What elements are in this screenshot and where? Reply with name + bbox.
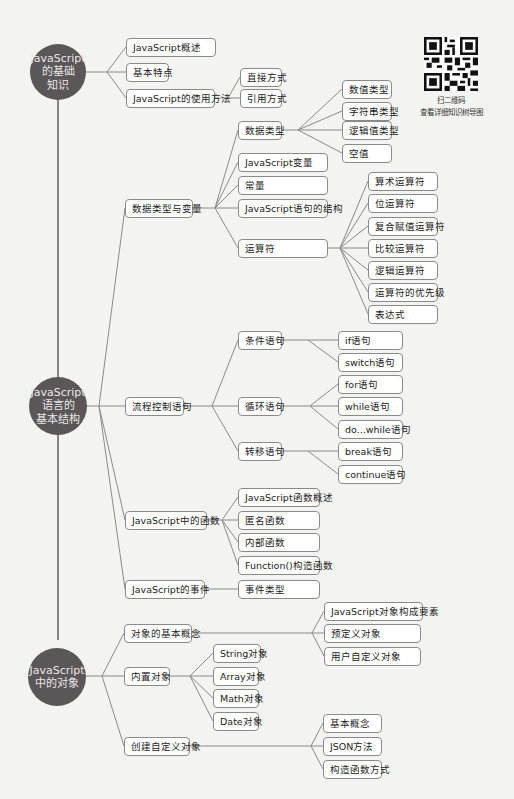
- mind-map: JavaScript 的基础 知识 JavaScript 语言的 基本结构 Ja…: [0, 0, 514, 799]
- node-statement-structure[interactable]: JavaScript语句的结构: [238, 199, 328, 218]
- node-expressions[interactable]: 表达式: [368, 305, 438, 324]
- title-strip-partial: [140, 0, 380, 4]
- node-while-stmt[interactable]: while语句: [338, 397, 403, 416]
- root-line: JavaScript: [30, 386, 85, 400]
- node-number-type[interactable]: 数值类型: [342, 80, 392, 99]
- node-predefined-objects[interactable]: 预定义对象: [324, 624, 421, 643]
- qr-caption-line1: 扫二维码: [424, 94, 478, 105]
- root-line: 语言的: [42, 399, 75, 413]
- node-logical-ops[interactable]: 逻辑运算符: [368, 261, 438, 280]
- node-string-obj[interactable]: String对象: [213, 644, 261, 663]
- node-inner-func[interactable]: 内部函数: [238, 533, 320, 552]
- qr-caption-line2: 查看详细知识树导图: [410, 106, 492, 117]
- root-js-basics[interactable]: JavaScript 的基础 知识: [30, 44, 86, 100]
- node-conditional[interactable]: 条件语句: [238, 331, 282, 350]
- node-function-ctor[interactable]: Function()构造函数: [238, 556, 320, 575]
- node-js-variables[interactable]: JavaScript变量: [238, 153, 328, 172]
- node-continue-stmt[interactable]: continue语句: [338, 465, 403, 484]
- root-line: 基本结构: [36, 413, 80, 427]
- node-constants[interactable]: 常量: [238, 176, 328, 195]
- node-object-elements[interactable]: JavaScript对象构成要素: [324, 602, 423, 621]
- node-arithmetic-ops[interactable]: 算术运算符: [368, 172, 438, 191]
- node-json-method[interactable]: JSON方法: [323, 737, 382, 756]
- node-loop[interactable]: 循环语句: [238, 397, 282, 416]
- root-line: 知识: [47, 79, 69, 93]
- root-line: 的基础: [42, 65, 75, 79]
- node-for-stmt[interactable]: for语句: [338, 375, 403, 394]
- node-js-events[interactable]: JavaScript的事件: [125, 580, 205, 599]
- node-reference-way[interactable]: 引用方式: [240, 89, 282, 108]
- node-basic-features[interactable]: 基本特点: [126, 63, 169, 82]
- node-create-custom-obj[interactable]: 创建自定义对象: [124, 737, 190, 756]
- node-object-concepts[interactable]: 对象的基本概念: [124, 624, 192, 643]
- node-direct-way[interactable]: 直接方式: [240, 68, 282, 87]
- node-operators[interactable]: 运算符: [238, 239, 328, 258]
- node-anonymous-func[interactable]: 匿名函数: [238, 511, 320, 530]
- root-line: JavaScript: [29, 664, 84, 678]
- node-js-functions[interactable]: JavaScript中的函数: [125, 511, 207, 530]
- node-data-types[interactable]: 数据类型: [238, 121, 282, 140]
- node-compound-assign-ops[interactable]: 复合赋值运算符: [368, 217, 438, 236]
- node-math-obj[interactable]: Math对象: [213, 689, 259, 708]
- node-bitwise-ops[interactable]: 位运算符: [368, 194, 438, 213]
- node-switch-stmt[interactable]: switch语句: [338, 353, 403, 372]
- node-boolean-type[interactable]: 逻辑值类型: [342, 121, 392, 140]
- root-js-objects[interactable]: JavaScript 中的对象: [28, 648, 86, 706]
- node-date-obj[interactable]: Date对象: [213, 712, 259, 731]
- node-data-types-vars[interactable]: 数据类型与变量: [125, 199, 193, 218]
- root-js-structure[interactable]: JavaScript 语言的 基本结构: [29, 377, 87, 435]
- node-if-stmt[interactable]: if语句: [338, 331, 403, 350]
- node-usage-methods[interactable]: JavaScript的使用方法: [126, 89, 215, 108]
- node-func-overview[interactable]: JavaScript函数概述: [238, 488, 320, 507]
- node-flow-control[interactable]: 流程控制语句: [125, 397, 184, 416]
- node-jump[interactable]: 转移语句: [238, 442, 282, 461]
- node-event-types[interactable]: 事件类型: [238, 580, 320, 599]
- node-op-precedence[interactable]: 运算符的优先级: [368, 283, 438, 302]
- node-do-while-stmt[interactable]: do...while语句: [338, 420, 403, 439]
- node-string-type[interactable]: 字符串类型: [342, 102, 392, 121]
- root-line: JavaScript: [30, 52, 85, 66]
- node-null-value[interactable]: 空值: [342, 144, 392, 163]
- root-line: 中的对象: [35, 677, 79, 691]
- node-break-stmt[interactable]: break语句: [338, 442, 403, 461]
- node-array-obj[interactable]: Array对象: [213, 667, 259, 686]
- node-user-defined-objects[interactable]: 用户自定义对象: [324, 647, 421, 666]
- node-comparison-ops[interactable]: 比较运算符: [368, 239, 438, 258]
- node-ctor-func-way[interactable]: 构造函数方式: [323, 760, 382, 779]
- node-basic-concepts[interactable]: 基本概念: [323, 714, 382, 733]
- node-builtin-objects[interactable]: 内置对象: [124, 667, 170, 686]
- node-js-overview[interactable]: JavaScript概述: [126, 38, 216, 57]
- qr-code-icon: [424, 37, 478, 91]
